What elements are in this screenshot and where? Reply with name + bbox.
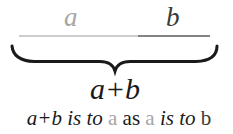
segment-b-label: b — [166, 4, 180, 31]
caption-a-plus-b-is-to: a+b is to — [27, 106, 103, 130]
ratio-caption: a+b is to a as a is to b — [0, 108, 233, 129]
caption-is-to: is to — [160, 106, 196, 130]
caption-a-gray-2: a — [145, 106, 154, 130]
curly-brace-icon — [12, 46, 217, 71]
segment-a-label: a — [64, 4, 78, 31]
caption-as: as — [123, 106, 141, 130]
caption-a-gray-1: a — [108, 106, 117, 130]
caption-b: b — [201, 106, 212, 130]
sum-label: a+b — [0, 74, 230, 104]
